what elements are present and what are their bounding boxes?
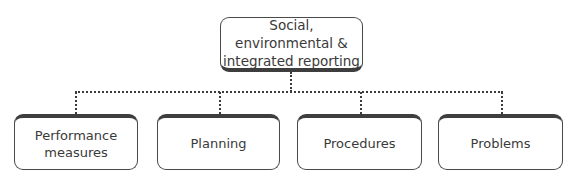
child-node-label: Planning — [191, 135, 247, 152]
connector-child-3 — [360, 92, 362, 114]
connector-child-4 — [501, 92, 503, 114]
child-node-planning: Planning — [157, 114, 280, 170]
root-node: Social, environmental & integrated repor… — [220, 17, 363, 72]
connector-horizontal — [75, 91, 503, 93]
root-node-label: Social, environmental & integrated repor… — [221, 16, 362, 70]
child-node-label: Problems — [471, 135, 531, 152]
connector-child-2 — [219, 92, 221, 114]
child-node-performance-measures: Performance measures — [14, 114, 138, 170]
child-node-label: Performance measures — [31, 127, 121, 161]
connector-root — [290, 72, 292, 92]
child-node-problems: Problems — [438, 114, 563, 170]
connector-child-1 — [75, 92, 77, 114]
child-node-procedures: Procedures — [297, 114, 422, 170]
child-node-label: Procedures — [323, 135, 395, 152]
